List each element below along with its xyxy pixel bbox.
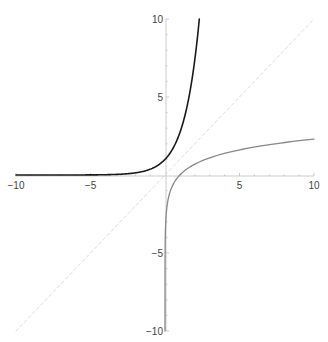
function-plot: −10−5510−10−5510 — [0, 0, 328, 342]
y-tick-label: 10 — [152, 14, 164, 25]
y-tick-label: 5 — [157, 92, 163, 103]
exp-curve — [16, 19, 199, 175]
x-tick-label: −5 — [85, 180, 97, 191]
log-curve — [165, 139, 314, 331]
x-tick-label: −10 — [8, 180, 25, 191]
y-tick-label: −5 — [152, 248, 164, 259]
x-tick-label: 10 — [308, 180, 320, 191]
x-tick-label: 5 — [237, 180, 243, 191]
y-tick-label: −10 — [146, 326, 163, 337]
